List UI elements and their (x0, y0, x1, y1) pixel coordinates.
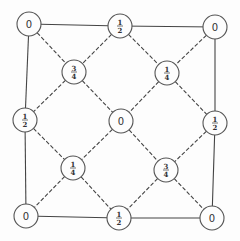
solid-edge-n_tl-n_tm (29, 24, 120, 26)
solid-edge-n_ml-n_tl (25, 24, 29, 120)
node-n_tm: 12 (108, 14, 132, 38)
node-denominator: 2 (118, 26, 123, 35)
node-denominator: 2 (117, 218, 122, 227)
node-n_c: 0 (109, 109, 133, 133)
node-n_br: 0 (200, 206, 224, 230)
solid-edge-n_bl-n_ml (25, 120, 26, 216)
node-label: 0 (23, 211, 29, 222)
node-label: 0 (212, 22, 218, 33)
node-denominator: 4 (165, 73, 170, 82)
solid-edge-n_bm-n_bl (26, 216, 119, 218)
node-denominator: 2 (23, 120, 28, 129)
node-n_bl: 0 (14, 204, 38, 228)
node-label: 0 (209, 213, 215, 224)
node-label: 0 (26, 19, 32, 30)
node-denominator: 4 (72, 72, 77, 81)
lattice-diagram: 012034141201214340120 (0, 0, 240, 241)
node-denominator: 4 (164, 170, 169, 179)
node-n_ll: 14 (61, 156, 85, 180)
node-n_ul: 34 (62, 60, 86, 84)
nodes: 012034141201214340120 (13, 12, 227, 230)
node-n_tr: 0 (203, 15, 227, 39)
node-label: 0 (118, 116, 124, 127)
node-denominator: 4 (71, 168, 76, 177)
node-n_tl: 0 (17, 12, 41, 36)
node-n_ml: 12 (13, 108, 37, 132)
node-n_ur: 14 (155, 61, 179, 85)
node-n_lr: 34 (154, 158, 178, 182)
node-n_bm: 12 (107, 206, 131, 230)
solid-edge-n_tm-n_tr (120, 26, 215, 27)
node-n_mr: 12 (203, 111, 227, 135)
solid-edge-n_mr-n_br (212, 123, 215, 218)
node-denominator: 2 (213, 123, 218, 132)
